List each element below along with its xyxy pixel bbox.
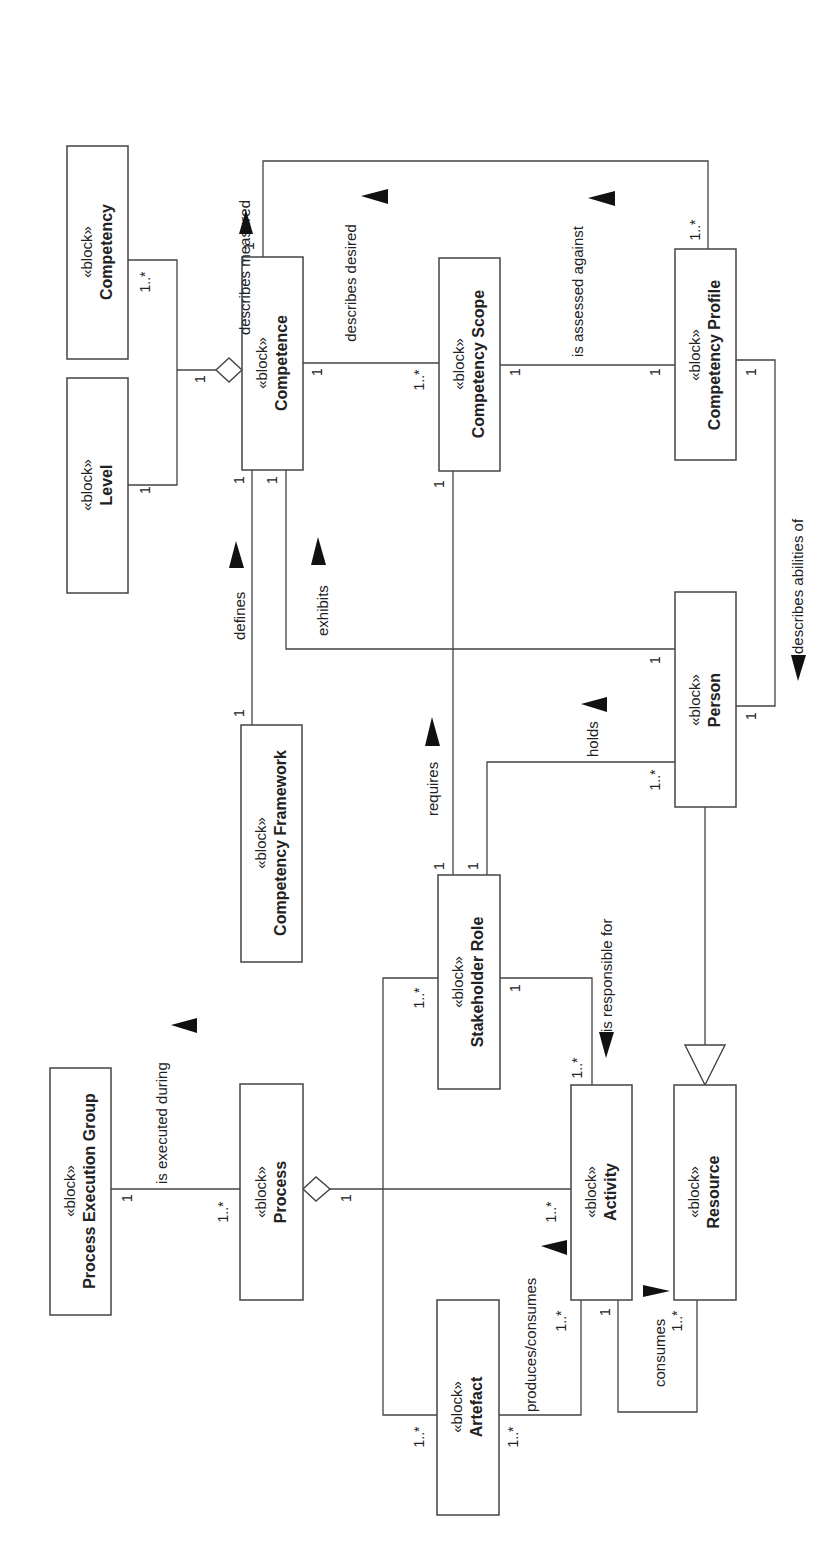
label-exhibits: exhibits — [314, 585, 331, 636]
multiplicity: 1..* — [687, 219, 703, 241]
multiplicity: 1..* — [553, 1310, 569, 1332]
association-describes-measured — [263, 161, 708, 257]
multiplicity: 1..* — [411, 369, 427, 391]
aggregation-diamond-icon — [303, 1177, 330, 1201]
multiplicity: 1..* — [669, 1310, 685, 1332]
multiplicity: 1 — [241, 242, 257, 250]
multiplicity: 1 — [431, 480, 447, 488]
multiplicity: 1 — [431, 862, 447, 870]
block-level[interactable]: «block» Level — [67, 378, 128, 593]
block-resource[interactable]: «block» Resource — [674, 1085, 736, 1300]
multiplicity: 1 — [338, 1194, 354, 1202]
block-name: Artefact — [468, 1376, 485, 1437]
association-exhibits — [286, 470, 675, 649]
label-is-executed-during: is executed during — [153, 1062, 170, 1184]
label-is-assessed-against: is assessed against — [569, 225, 586, 357]
multiplicity: 1 — [597, 1308, 613, 1316]
direction-arrow-icon — [599, 1032, 614, 1058]
label-holds: holds — [584, 721, 601, 757]
aggregation-diamond-icon — [216, 358, 242, 382]
direction-arrow-icon — [311, 537, 326, 565]
multiplicity: 1 — [507, 368, 523, 376]
direction-arrow-icon — [229, 541, 244, 568]
block-name: Competency — [98, 204, 115, 300]
stereotype-label: «block» — [686, 329, 703, 381]
block-name: Competency Scope — [470, 290, 487, 439]
generalization-person-resource — [685, 807, 725, 1085]
direction-arrow-icon — [361, 189, 388, 204]
block-name: Activity — [602, 1163, 619, 1221]
direction-arrow-icon — [541, 1240, 567, 1255]
multiplicity: 1 — [137, 486, 153, 494]
block-name: Resource — [705, 1155, 722, 1228]
multiplicity: 1 — [192, 375, 208, 383]
stereotype-label: «block» — [61, 1165, 78, 1217]
block-competency-framework[interactable]: «block» Competency Framework — [241, 725, 302, 962]
multiplicity: 1 — [507, 984, 523, 992]
block-competency-scope[interactable]: «block» Competency Scope — [439, 258, 500, 471]
multiplicity: 1..* — [647, 769, 663, 791]
label-consumes: consumes — [651, 1319, 668, 1387]
label-requires: requires — [424, 762, 441, 816]
block-name: Level — [98, 465, 115, 506]
block-activity[interactable]: «block» Activity — [571, 1085, 632, 1300]
block-name: Competency Profile — [706, 280, 723, 430]
multiplicity: 1 — [264, 476, 280, 484]
multiplicity: 1..* — [411, 1426, 427, 1448]
multiplicity: 1 — [231, 476, 247, 484]
block-name: Competency Framework — [272, 750, 289, 936]
stereotype-label: «block» — [686, 674, 703, 726]
multiplicity: 1 — [743, 368, 759, 376]
block-competency-profile[interactable]: «block» Competency Profile — [675, 249, 736, 460]
block-stakeholder-role[interactable]: «block» Stakeholder Role — [438, 875, 500, 1089]
stereotype-label: «block» — [448, 1381, 465, 1433]
direction-arrow-icon — [791, 655, 806, 681]
label-describes-desired: describes desired — [342, 224, 359, 342]
multiplicity: 1..* — [137, 271, 153, 293]
block-name: Person — [706, 673, 723, 727]
direction-arrow-icon — [425, 717, 440, 746]
label-is-responsible-for: is responsible for — [598, 919, 615, 1032]
block-name: Process Execution Group — [81, 1093, 98, 1289]
association-describes-abilities-of — [736, 360, 775, 706]
block-name: Stakeholder Role — [469, 917, 486, 1048]
block-definition-diagram: «block» Competency «block» Level «block»… — [0, 0, 834, 1565]
block-process[interactable]: «block» Process — [240, 1084, 303, 1300]
aggregation-competence-parts — [128, 260, 242, 485]
stereotype-label: «block» — [449, 956, 466, 1008]
multiplicity: 1 — [119, 1194, 135, 1202]
block-competency[interactable]: «block» Competency — [67, 146, 128, 359]
association-stakeholder-artefact — [383, 978, 438, 1415]
label-produces-consumes: produces/consumes — [522, 1278, 539, 1412]
block-name: Process — [272, 1161, 289, 1223]
stereotype-label: «block» — [252, 817, 269, 869]
block-person[interactable]: «block» Person — [675, 592, 736, 807]
block-name: Competence — [273, 315, 290, 411]
multiplicity: 1 — [743, 712, 759, 720]
multiplicity: 1 — [647, 656, 663, 664]
block-artefact[interactable]: «block» Artefact — [437, 1300, 499, 1515]
diagram-canvas: «block» Competency «block» Level «block»… — [0, 0, 834, 1565]
multiplicity: 1 — [231, 709, 247, 717]
direction-arrow-icon — [588, 191, 615, 206]
generalization-triangle-icon — [685, 1045, 725, 1085]
direction-arrow-icon — [581, 697, 607, 712]
stereotype-label: «block» — [685, 1166, 702, 1218]
multiplicity: 1..* — [215, 1201, 231, 1223]
stereotype-label: «block» — [78, 459, 95, 511]
stereotype-label: «block» — [450, 338, 467, 390]
stereotype-label: «block» — [78, 226, 95, 278]
multiplicity: 1 — [465, 862, 481, 870]
multiplicity: 1..* — [505, 1426, 521, 1448]
stereotype-label: «block» — [582, 1166, 599, 1218]
multiplicity: 1 — [647, 368, 663, 376]
multiplicity: 1..* — [543, 1201, 559, 1223]
label-describes-abilities-of: describes abilities of — [789, 518, 806, 654]
stereotype-label: «block» — [253, 337, 270, 389]
stereotype-label: «block» — [252, 1166, 269, 1218]
block-process-execution-group[interactable]: «block» Process Execution Group — [50, 1068, 111, 1315]
label-defines: defines — [231, 592, 248, 640]
direction-arrow-icon — [643, 1285, 670, 1297]
multiplicity: 1..* — [569, 1057, 585, 1079]
direction-arrow-icon — [171, 1018, 197, 1033]
